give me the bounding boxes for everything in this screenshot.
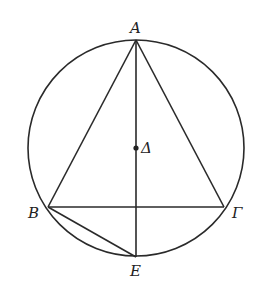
segment-AB — [48, 40, 136, 207]
label-G: Γ — [231, 204, 243, 222]
label-E: E — [129, 262, 141, 280]
geometry-diagram: A Δ B Γ E — [0, 0, 267, 291]
label-D: Δ — [140, 139, 152, 157]
segment-BE — [48, 207, 136, 257]
label-B: B — [27, 204, 39, 222]
segment-AG — [136, 40, 224, 207]
center-point — [133, 145, 138, 150]
label-A: A — [128, 19, 141, 37]
